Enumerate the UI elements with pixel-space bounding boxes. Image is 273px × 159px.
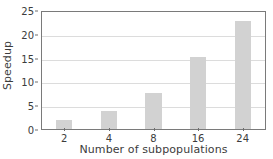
x-tick-mark	[243, 128, 244, 131]
x-tick-mark	[64, 128, 65, 131]
bar	[101, 111, 117, 129]
y-tick-mark	[35, 34, 38, 35]
y-tick-label: 5	[28, 101, 34, 112]
bar	[190, 57, 206, 129]
y-tick-label: 0	[28, 125, 34, 136]
y-tick-mark	[35, 130, 38, 131]
y-tick-label: 15	[21, 53, 34, 64]
y-tick-mark	[35, 11, 38, 12]
y-tick-mark	[35, 106, 38, 107]
y-tick-label: 25	[21, 6, 34, 17]
y-tick-mark	[35, 82, 38, 83]
bar	[235, 21, 251, 129]
x-tick-mark	[109, 128, 110, 131]
y-tick-label: 20	[21, 29, 34, 40]
x-axis-label: Number of subpopulations	[41, 143, 266, 156]
bar	[145, 93, 161, 129]
bar-chart-figure: Speedup 0 5 10 15 20 25 2	[0, 0, 273, 159]
bar-series	[42, 12, 265, 129]
y-axis-label-text: Speedup	[2, 41, 15, 90]
y-tick-mark	[35, 58, 38, 59]
y-tick-label: 10	[21, 77, 34, 88]
x-tick-mark	[198, 128, 199, 131]
plot-area	[41, 11, 266, 130]
y-axis-ticks: 0 5 10 15 20 25	[14, 11, 38, 130]
x-tick-mark	[154, 128, 155, 131]
